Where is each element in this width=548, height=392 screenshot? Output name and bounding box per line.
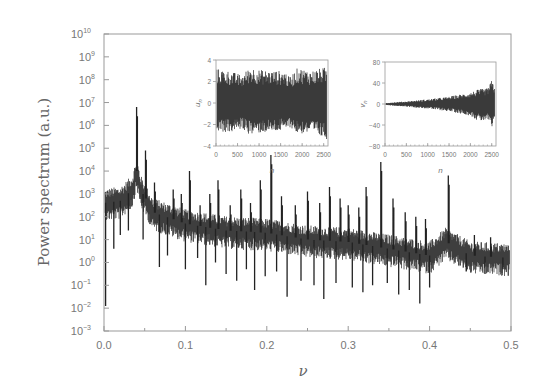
x-axis-title: ν (298, 362, 307, 380)
x-tick-label: 0.0 (96, 339, 111, 351)
y-tick-label: 102 (79, 210, 95, 223)
x-tick-label: 0.1 (178, 339, 193, 351)
spectrum-series (105, 107, 510, 306)
power-spectrum-chart: 101010910810710610510410310210110010−110… (0, 0, 548, 392)
y-tick-label: 101 (79, 233, 95, 246)
inset-x-tick-label: 1500 (273, 151, 288, 158)
inset-v-n-plot: 80400−40−8005001000150020002500nvn (358, 59, 499, 176)
y-tick-label: 106 (79, 118, 95, 131)
inset-y-tick-label: 80 (373, 59, 381, 66)
inset-y-axis-title: un (193, 98, 203, 106)
inset-y-tick-label: 4 (207, 57, 211, 64)
x-tick-label: 0.5 (503, 339, 518, 351)
x-axis-ticks: 0.00.10.20.30.40.5 (96, 326, 518, 351)
inset-x-tick-label: 2500 (316, 151, 331, 158)
y-tick-label: 105 (79, 141, 95, 154)
y-tick-label: 104 (79, 164, 95, 177)
inset-x-tick-label: 0 (383, 151, 387, 158)
inset-x-tick-label: 1500 (442, 151, 457, 158)
x-tick-label: 0.2 (259, 339, 274, 351)
y-axis-ticks: 101010910810710610510410310210110010−110… (71, 27, 109, 337)
inset-y-tick-label: 2 (207, 78, 211, 85)
inset-y-axis-title: vn (358, 100, 368, 108)
x-tick-label: 0.3 (341, 339, 356, 351)
y-axis-title: Power spectrum (a.u.) (35, 98, 53, 266)
inset-y-tick-label: −4 (204, 143, 212, 150)
inset-x-axis-title: n (438, 166, 443, 175)
inset-x-tick-label: 2000 (463, 151, 478, 158)
y-tick-label: 10−2 (71, 301, 91, 314)
inset-x-axis-title: n (270, 166, 275, 175)
inset-y-tick-label: −40 (369, 122, 380, 129)
y-tick-label: 1010 (71, 27, 91, 40)
inset-y-tick-label: −80 (369, 143, 380, 150)
inset-y-tick-label: 0 (376, 101, 380, 108)
inset-u-n-plot: 420−2−405001000150020002500nun (193, 57, 331, 176)
y-tick-label: 10−1 (71, 278, 91, 291)
inset-y-tick-label: 40 (373, 80, 381, 87)
y-tick-label: 109 (79, 50, 95, 63)
inset-x-tick-label: 1000 (252, 151, 267, 158)
inset-series (217, 68, 327, 139)
y-tick-label: 108 (79, 73, 95, 86)
inset-y-tick-label: 0 (207, 100, 211, 107)
y-tick-label: 107 (79, 96, 95, 109)
inset-series (386, 81, 495, 126)
inset-x-tick-label: 500 (232, 151, 243, 158)
y-tick-label: 103 (79, 187, 95, 200)
inset-x-tick-label: 500 (401, 151, 412, 158)
y-tick-label: 100 (79, 255, 95, 268)
inset-x-tick-label: 2500 (484, 151, 499, 158)
main-plot-frame (104, 34, 511, 331)
inset-x-tick-label: 0 (214, 151, 218, 158)
inset-x-tick-label: 1000 (420, 151, 435, 158)
y-tick-label: 10−3 (71, 324, 91, 337)
x-tick-label: 0.4 (422, 339, 437, 351)
inset-x-tick-label: 2000 (295, 151, 310, 158)
inset-y-tick-label: −2 (204, 121, 212, 128)
